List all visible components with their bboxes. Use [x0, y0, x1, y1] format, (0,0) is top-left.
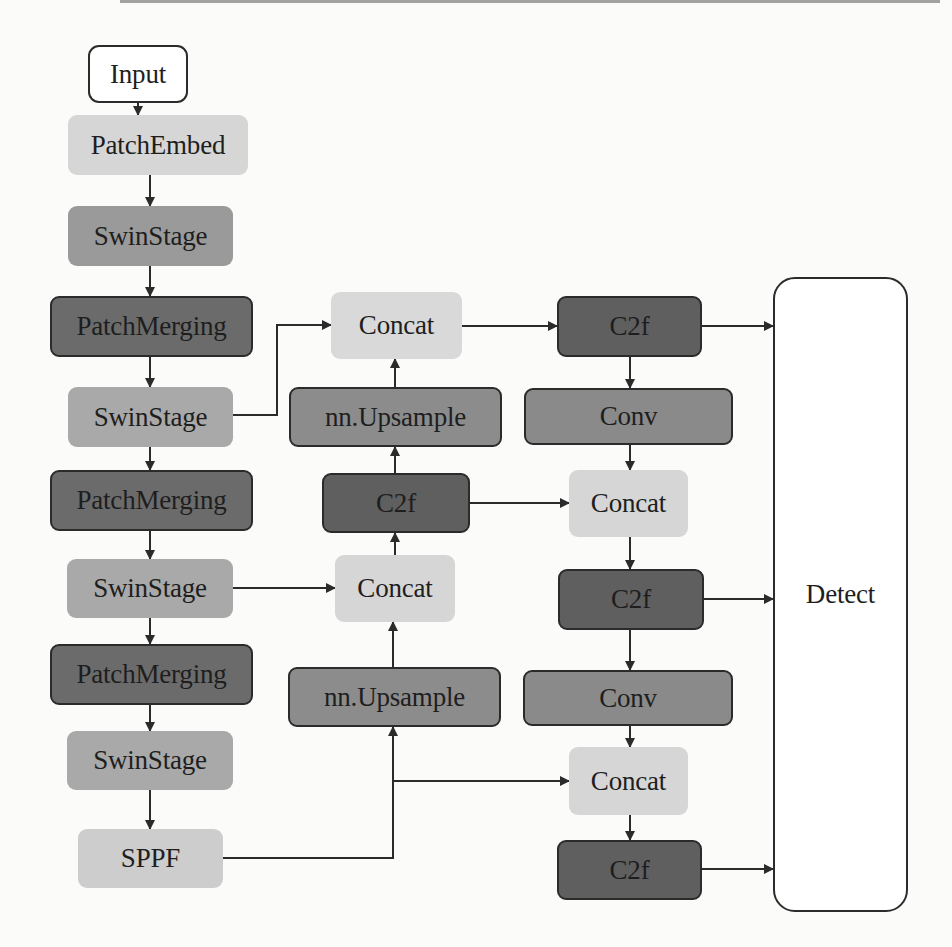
node-concat_mid1: Concat — [331, 292, 462, 359]
node-label: PatchEmbed — [91, 130, 225, 161]
node-concat_r1: Concat — [569, 470, 688, 537]
node-patchmerging3: PatchMerging — [50, 644, 253, 705]
node-label: C2f — [376, 488, 416, 519]
node-c2f_mid: C2f — [322, 473, 470, 533]
node-concat_mid2: Concat — [335, 555, 455, 622]
node-label: SPPF — [121, 843, 180, 874]
node-c2f_r1: C2f — [557, 296, 702, 357]
node-label: C2f — [610, 855, 650, 886]
node-label: Concat — [357, 573, 432, 604]
node-label: Concat — [591, 766, 666, 797]
node-upsample1: nn.Upsample — [289, 387, 502, 447]
node-label: PatchMerging — [76, 485, 226, 516]
node-label: SwinStage — [93, 573, 207, 604]
node-sppf: SPPF — [78, 829, 223, 888]
node-conv_r2: Conv — [523, 670, 733, 726]
node-label: nn.Upsample — [325, 402, 466, 433]
node-concat_r2: Concat — [569, 747, 688, 815]
architecture-diagram: InputPatchEmbedSwinStagePatchMergingSwin… — [0, 0, 952, 947]
node-label: Conv — [600, 401, 658, 432]
node-label: SwinStage — [94, 402, 208, 433]
node-patchmerging1: PatchMerging — [50, 296, 253, 357]
node-label: Concat — [359, 310, 434, 341]
node-label: SwinStage — [94, 221, 208, 252]
node-label: PatchMerging — [76, 659, 226, 690]
node-patchmerging2: PatchMerging — [50, 470, 253, 531]
node-input: Input — [88, 45, 188, 103]
node-label: Conv — [599, 683, 657, 714]
node-swinstage4: SwinStage — [67, 731, 233, 790]
node-detect: Detect — [773, 277, 908, 912]
node-swinstage3: SwinStage — [67, 559, 233, 618]
node-label: Detect — [806, 579, 875, 610]
node-label: C2f — [610, 311, 650, 342]
node-conv_r1: Conv — [524, 388, 733, 445]
node-c2f_r3: C2f — [557, 840, 702, 900]
node-patchembed: PatchEmbed — [68, 115, 248, 175]
node-label: SwinStage — [93, 745, 207, 776]
node-label: Input — [110, 59, 166, 90]
edge-sppf-to-upsample2 — [223, 727, 393, 858]
node-upsample2: nn.Upsample — [288, 667, 501, 727]
node-label: Concat — [591, 488, 666, 519]
node-c2f_r2: C2f — [558, 569, 704, 630]
node-swinstage2: SwinStage — [68, 387, 233, 447]
node-label: nn.Upsample — [324, 682, 465, 713]
node-label: PatchMerging — [76, 311, 226, 342]
node-label: C2f — [611, 584, 651, 615]
node-swinstage1: SwinStage — [68, 206, 233, 266]
